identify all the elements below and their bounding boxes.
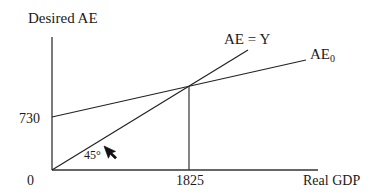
y-axis-label: Desired AE: [28, 11, 98, 26]
ae0-line-label: AE0: [310, 47, 335, 64]
ae0-label-main: AE: [310, 46, 330, 62]
ae0-label-subscript: 0: [330, 53, 335, 64]
y-intercept-label: 730: [19, 112, 40, 126]
mouse-cursor-icon: [104, 143, 118, 161]
diagram-canvas: [0, 0, 385, 196]
ae0-line: [52, 60, 306, 117]
x-axis-label: Real GDP: [303, 174, 360, 188]
angle-label: 45°: [84, 149, 101, 161]
line-45-label: AE = Y: [224, 32, 270, 47]
origin-label: 0: [27, 174, 34, 188]
equilibrium-x-label: 1825: [176, 174, 204, 188]
